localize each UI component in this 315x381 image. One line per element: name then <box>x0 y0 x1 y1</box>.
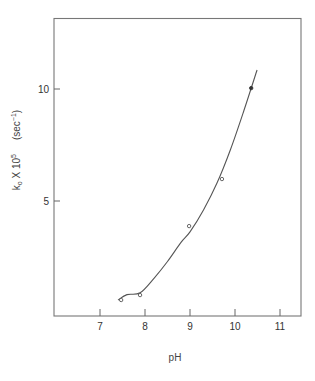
x-axis-label: pH <box>169 352 182 363</box>
y-label-units-close: ) <box>11 110 22 113</box>
y-tick-label: 10 <box>38 84 50 95</box>
plot-frame <box>54 19 301 317</box>
data-point-filled <box>250 86 253 89</box>
x-tick-label: 7 <box>97 321 103 332</box>
data-point-open <box>220 177 223 180</box>
y-tick-label: 5 <box>43 196 49 207</box>
y-label-multiplier: X 10 <box>11 158 22 182</box>
y-label-units: (sec <box>11 121 22 140</box>
x-tick-label: 11 <box>275 321 286 332</box>
data-point-open <box>138 293 141 296</box>
ph-rate-chart: 7891011 510 pH ko X 105(sec−1) <box>0 0 315 381</box>
y-label-exponent: 5 <box>10 154 17 158</box>
data-points <box>119 86 252 301</box>
data-point-open <box>119 298 122 301</box>
x-axis: 7891011 <box>97 309 285 332</box>
x-tick-label: 9 <box>187 321 193 332</box>
y-axis: 510 <box>38 84 60 207</box>
y-label-units-exponent: −1 <box>10 113 17 121</box>
data-point-open <box>187 224 190 227</box>
fitted-curve <box>118 70 257 300</box>
x-tick-label: 10 <box>229 321 241 332</box>
y-axis-label: ko X 105(sec−1) <box>10 110 23 190</box>
x-tick-label: 8 <box>142 321 148 332</box>
